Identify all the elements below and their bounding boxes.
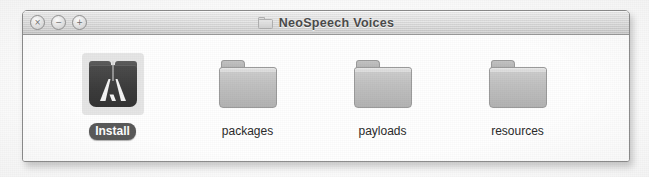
folder-icon[interactable] bbox=[258, 17, 273, 29]
installer-package-icon[interactable] bbox=[89, 61, 137, 107]
window-titlebar[interactable]: × − + NeoSpeech Voices bbox=[23, 11, 629, 35]
item-install[interactable]: Install bbox=[45, 49, 180, 140]
zoom-button[interactable]: + bbox=[72, 15, 87, 30]
window-controls: × − + bbox=[30, 15, 87, 30]
folder-body bbox=[354, 67, 412, 108]
folder-body bbox=[219, 67, 277, 108]
folder-lip bbox=[355, 69, 411, 72]
item-packages-label[interactable]: packages bbox=[216, 123, 279, 140]
folder-icon[interactable] bbox=[489, 60, 547, 108]
desktop-background: × − + NeoSpeech Voices bbox=[0, 0, 649, 177]
item-install-label[interactable]: Install bbox=[89, 123, 136, 140]
minimize-icon: − bbox=[52, 19, 65, 27]
item-resources-icon-slot bbox=[489, 49, 547, 119]
minimize-button[interactable]: − bbox=[51, 15, 66, 30]
selection-highlight bbox=[82, 53, 144, 115]
adobe-logo-icon bbox=[100, 79, 126, 101]
item-payloads-label[interactable]: payloads bbox=[352, 123, 412, 140]
item-resources-label[interactable]: resources bbox=[485, 123, 550, 140]
folder-lip bbox=[220, 69, 276, 72]
item-payloads-icon-slot bbox=[354, 49, 412, 119]
icon-grid: Install packages bbox=[23, 35, 629, 161]
package-seam bbox=[112, 61, 114, 81]
window-title: NeoSpeech Voices bbox=[279, 16, 395, 30]
window-title-area: NeoSpeech Voices bbox=[23, 11, 629, 34]
close-button[interactable]: × bbox=[30, 15, 45, 30]
finder-window: × − + NeoSpeech Voices bbox=[22, 10, 630, 162]
zoom-icon: + bbox=[73, 19, 86, 27]
item-payloads[interactable]: payloads bbox=[315, 49, 450, 140]
item-packages-icon-slot bbox=[219, 49, 277, 119]
folder-lip bbox=[490, 69, 546, 72]
item-packages[interactable]: packages bbox=[180, 49, 315, 140]
finder-content-area[interactable]: Install packages bbox=[23, 35, 629, 161]
item-install-icon-slot bbox=[82, 49, 144, 119]
folder-icon-body bbox=[258, 19, 273, 29]
close-icon: × bbox=[31, 19, 44, 27]
folder-icon[interactable] bbox=[219, 60, 277, 108]
folder-body bbox=[489, 67, 547, 108]
item-resources[interactable]: resources bbox=[450, 49, 585, 140]
folder-icon[interactable] bbox=[354, 60, 412, 108]
